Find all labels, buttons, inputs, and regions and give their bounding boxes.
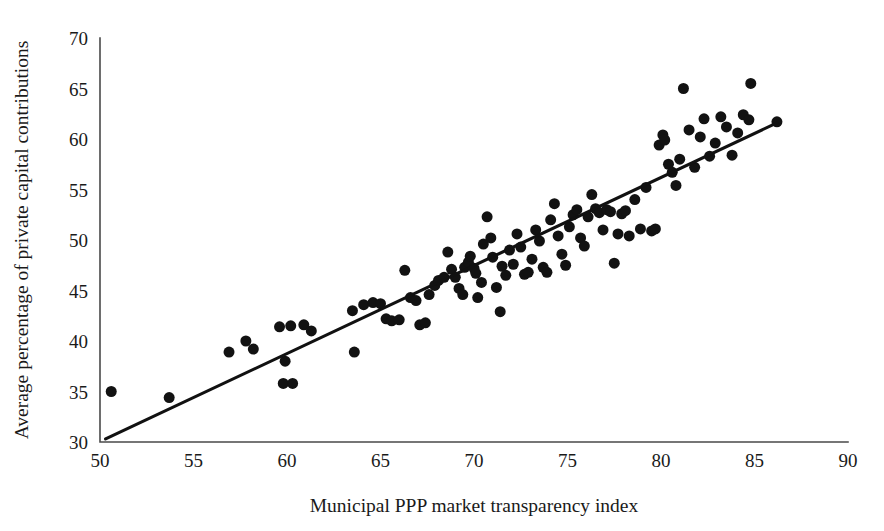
data-point xyxy=(715,111,726,122)
data-point xyxy=(442,247,453,258)
y-tick-label: 35 xyxy=(69,382,88,403)
data-point xyxy=(411,295,422,306)
y-tick-label: 65 xyxy=(69,79,88,100)
data-point xyxy=(745,78,756,89)
data-point xyxy=(699,113,710,124)
data-point xyxy=(586,189,597,200)
data-point xyxy=(457,289,468,300)
data-point xyxy=(579,241,590,252)
data-point xyxy=(635,223,646,234)
data-point xyxy=(553,230,564,241)
data-point xyxy=(545,214,556,225)
trend-line xyxy=(106,123,777,439)
data-point xyxy=(612,228,623,239)
data-point xyxy=(240,336,251,347)
data-point xyxy=(224,347,235,358)
data-point xyxy=(727,150,738,161)
x-axis-title: Municipal PPP market transparency index xyxy=(310,495,639,516)
data-point xyxy=(710,138,721,149)
data-point xyxy=(695,131,706,142)
y-tick-labels: 303540455055606570 xyxy=(69,28,88,453)
y-tick-label: 40 xyxy=(69,331,88,352)
data-point xyxy=(287,378,298,389)
data-point xyxy=(491,282,502,293)
data-point xyxy=(629,194,640,205)
y-tick-label: 50 xyxy=(69,230,88,251)
data-point xyxy=(549,198,560,209)
x-tick-label: 55 xyxy=(184,450,203,471)
x-tick-label: 70 xyxy=(465,450,484,471)
data-point xyxy=(678,83,689,94)
data-point xyxy=(285,320,296,331)
x-tick-label: 50 xyxy=(91,450,110,471)
data-point xyxy=(476,277,487,288)
axis-lines xyxy=(100,38,848,442)
data-point xyxy=(512,228,523,239)
data-point xyxy=(420,317,431,328)
data-point xyxy=(721,121,732,132)
data-point xyxy=(523,267,534,278)
x-tick-label: 65 xyxy=(371,450,390,471)
y-tick-label: 30 xyxy=(69,432,88,453)
data-point xyxy=(598,224,609,235)
data-point xyxy=(164,392,175,403)
x-tick-label: 90 xyxy=(839,450,858,471)
data-point xyxy=(465,251,476,262)
x-tick-labels: 505560657075808590 xyxy=(91,450,858,471)
data-point xyxy=(624,230,635,241)
x-tick-label: 85 xyxy=(745,450,764,471)
y-tick-label: 70 xyxy=(69,28,88,49)
data-point xyxy=(541,267,552,278)
data-points xyxy=(106,78,783,403)
data-point xyxy=(470,268,481,279)
data-point xyxy=(508,259,519,270)
data-point xyxy=(526,254,537,265)
axes-group xyxy=(100,38,848,442)
y-tick-label: 60 xyxy=(69,129,88,150)
data-point xyxy=(743,114,754,125)
data-point xyxy=(684,124,695,135)
y-tick-label: 55 xyxy=(69,180,88,201)
data-point xyxy=(399,265,410,276)
data-point xyxy=(424,289,435,300)
data-point xyxy=(482,211,493,222)
scatter-chart: 505560657075808590 303540455055606570 Mu… xyxy=(0,0,884,531)
data-point xyxy=(605,206,616,217)
data-point xyxy=(659,135,670,146)
data-point xyxy=(248,344,259,355)
data-point xyxy=(500,270,511,281)
data-point xyxy=(674,154,685,165)
data-point xyxy=(358,299,369,310)
data-point xyxy=(495,306,506,317)
y-axis-title: Average percentage of private capital co… xyxy=(11,41,32,440)
chart-canvas: 505560657075808590 303540455055606570 Mu… xyxy=(0,0,884,531)
data-point xyxy=(274,321,285,332)
x-tick-label: 80 xyxy=(652,450,671,471)
data-point xyxy=(620,205,631,216)
data-point xyxy=(609,258,620,269)
data-point xyxy=(556,249,567,260)
data-point xyxy=(394,314,405,325)
data-point xyxy=(349,347,360,358)
data-point xyxy=(347,305,358,316)
data-point xyxy=(472,292,483,303)
data-point xyxy=(670,180,681,191)
x-tick-label: 60 xyxy=(278,450,297,471)
y-tick-label: 45 xyxy=(69,281,88,302)
data-point xyxy=(560,260,571,271)
data-point xyxy=(106,386,117,397)
data-point xyxy=(485,232,496,243)
data-point xyxy=(650,223,661,234)
x-tick-label: 75 xyxy=(558,450,577,471)
data-point xyxy=(732,127,743,138)
data-point xyxy=(306,325,317,336)
